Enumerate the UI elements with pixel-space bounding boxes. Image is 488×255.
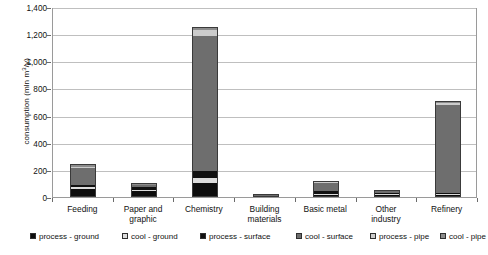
bar-segment[interactable] bbox=[436, 105, 460, 193]
y-tick-label: 1,000 bbox=[3, 58, 47, 67]
legend-label: process - ground bbox=[39, 232, 99, 241]
bar-group bbox=[131, 183, 157, 197]
legend-swatch bbox=[30, 233, 36, 239]
legend-item[interactable]: process - surface bbox=[200, 232, 270, 241]
x-category-label-line: Basic metal bbox=[295, 204, 356, 214]
bar-group bbox=[374, 190, 400, 197]
bar-group bbox=[313, 181, 339, 197]
x-tick-mark bbox=[173, 198, 174, 202]
y-tick-mark bbox=[46, 171, 51, 172]
bar-group bbox=[253, 194, 279, 197]
x-tick-mark bbox=[113, 198, 114, 202]
y-axis-title-pre: consumption (mln m bbox=[22, 71, 31, 145]
x-category-label: Otherindustry bbox=[356, 204, 417, 224]
y-tick-label: 600 bbox=[3, 112, 47, 121]
bar-segment[interactable] bbox=[375, 195, 399, 196]
x-category-label-line: Other bbox=[356, 204, 417, 214]
bar-segment[interactable] bbox=[193, 171, 217, 178]
bar-stack[interactable] bbox=[192, 27, 218, 197]
legend-swatch bbox=[296, 233, 302, 239]
y-tick-mark bbox=[46, 144, 51, 145]
x-tick-mark bbox=[52, 198, 53, 202]
x-category-label: Feeding bbox=[52, 204, 113, 214]
y-tick-label: 400 bbox=[3, 139, 47, 148]
stacked-bar-chart: consumption (mln m3/y) 02004006008001,00… bbox=[0, 0, 488, 255]
legend-item[interactable]: cool - ground bbox=[122, 232, 178, 241]
x-tick-mark bbox=[234, 198, 235, 202]
y-tick-label: 800 bbox=[3, 85, 47, 94]
bars-container bbox=[53, 9, 476, 197]
bar-stack[interactable] bbox=[374, 190, 400, 197]
x-tick-mark bbox=[356, 198, 357, 202]
bar-group bbox=[192, 27, 218, 197]
bar-group bbox=[435, 101, 461, 197]
legend-swatch bbox=[370, 233, 376, 239]
legend-swatch bbox=[200, 233, 206, 239]
legend-label: cool - ground bbox=[131, 232, 178, 241]
y-tick-label: 0 bbox=[3, 194, 47, 203]
bar-segment[interactable] bbox=[193, 183, 217, 196]
x-category-label: Buildingmaterials bbox=[234, 204, 295, 224]
legend-label: process - pipe bbox=[379, 232, 429, 241]
legend-item[interactable]: cool - surface bbox=[296, 232, 353, 241]
bar-segment[interactable] bbox=[132, 191, 156, 196]
y-tick-label: 1,200 bbox=[3, 31, 47, 40]
bar-stack[interactable] bbox=[313, 181, 339, 197]
y-tick-mark bbox=[46, 117, 51, 118]
y-tick-mark bbox=[46, 8, 51, 9]
legend-label: process - surface bbox=[209, 232, 270, 241]
y-tick-mark bbox=[46, 35, 51, 36]
x-category-label-line: Building bbox=[234, 204, 295, 214]
y-tick-label: 1,400 bbox=[3, 4, 47, 13]
legend-item[interactable]: process - pipe bbox=[370, 232, 429, 241]
x-category-label: Basic metal bbox=[295, 204, 356, 214]
x-tick-mark bbox=[416, 198, 417, 202]
y-tick-mark bbox=[46, 89, 51, 90]
legend-label: cool - surface bbox=[305, 232, 353, 241]
bar-segment[interactable] bbox=[314, 183, 338, 190]
x-category-label-line: Chemistry bbox=[173, 204, 234, 214]
legend-label: cool - pipe bbox=[449, 232, 486, 241]
bar-segment[interactable] bbox=[436, 195, 460, 196]
bar-segment[interactable] bbox=[314, 195, 338, 196]
y-tick-mark bbox=[46, 62, 51, 63]
x-category-label-line: materials bbox=[234, 214, 295, 224]
bar-stack[interactable] bbox=[70, 164, 96, 197]
legend-swatch bbox=[440, 233, 446, 239]
x-category-label-line: Paper and bbox=[113, 204, 174, 214]
legend-item[interactable]: process - ground bbox=[30, 232, 99, 241]
x-category-label: Chemistry bbox=[173, 204, 234, 214]
bar-stack[interactable] bbox=[253, 194, 279, 197]
bar-segment[interactable] bbox=[71, 168, 95, 185]
x-category-label: Paper andgraphic bbox=[113, 204, 174, 224]
legend-swatch bbox=[122, 233, 128, 239]
bar-segment[interactable] bbox=[193, 36, 217, 170]
x-tick-mark bbox=[477, 198, 478, 202]
chart-legend: process - groundcool - groundprocess - s… bbox=[30, 229, 470, 243]
y-tick-label: 200 bbox=[3, 166, 47, 175]
y-axis-title: consumption (mln m3/y) bbox=[21, 26, 32, 176]
bar-group bbox=[70, 164, 96, 197]
plot-area bbox=[52, 8, 477, 198]
y-axis-title-sup: 3 bbox=[21, 67, 27, 70]
legend-item[interactable]: cool - pipe bbox=[440, 232, 486, 241]
x-category-label-line: industry bbox=[356, 214, 417, 224]
bar-stack[interactable] bbox=[131, 183, 157, 197]
x-category-label: Refinery bbox=[416, 204, 477, 214]
x-category-label-line: Refinery bbox=[416, 204, 477, 214]
x-category-label-line: graphic bbox=[113, 214, 174, 224]
x-category-label-line: Feeding bbox=[52, 204, 113, 214]
bar-segment[interactable] bbox=[193, 30, 217, 37]
y-tick-mark bbox=[46, 198, 51, 199]
bar-segment[interactable] bbox=[71, 189, 95, 196]
bar-stack[interactable] bbox=[435, 101, 461, 197]
x-tick-mark bbox=[295, 198, 296, 202]
